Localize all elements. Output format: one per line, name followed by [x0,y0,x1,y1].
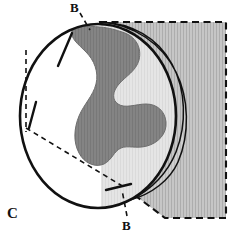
figure-panel-c: B B C [0,0,234,234]
figure-diagram [0,0,234,234]
label-b-top: B [70,1,79,14]
label-panel-c: C [7,206,18,221]
sphere-body [20,24,176,208]
label-b-bottom: B [122,219,131,232]
